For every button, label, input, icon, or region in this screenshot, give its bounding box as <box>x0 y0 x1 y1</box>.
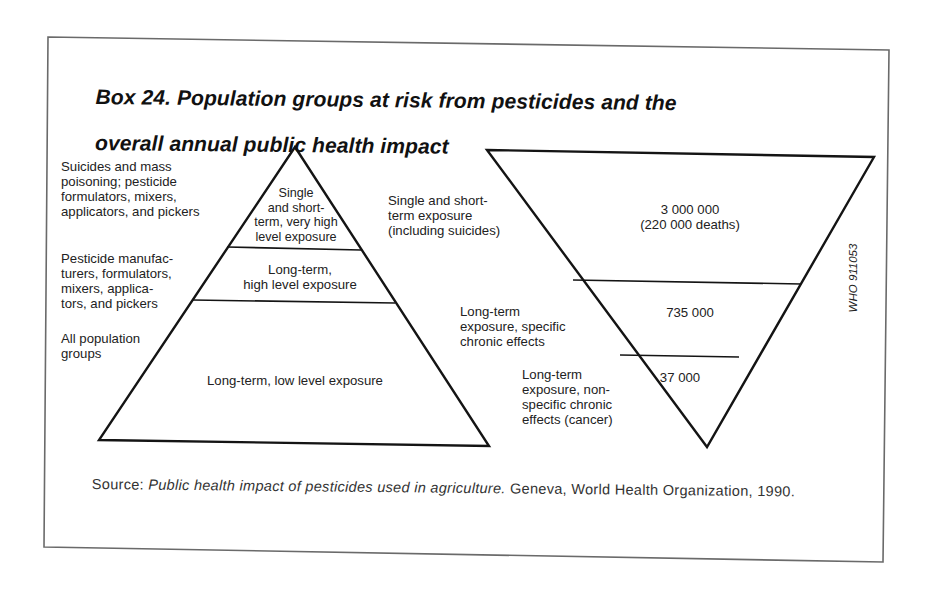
right-tier-value-cancer: 37 000 <box>640 370 720 385</box>
right-pyramid-divider-2 <box>620 355 739 357</box>
left-tier-label-low: Long-term, low level exposure <box>180 373 410 388</box>
left-tier-label-high: Long-term, high level exposure <box>220 262 380 292</box>
figure-title: Box 24. Population groups at risk from p… <box>95 62 856 185</box>
left-side-label-all-groups: All population groups <box>61 331 140 361</box>
figure-title-line-1: Box 24. Population groups at risk from p… <box>96 85 856 116</box>
left-side-label-acute-groups: Suicides and mass poisoning; pesticide f… <box>61 159 200 219</box>
left-pyramid-divider-2 <box>193 300 395 303</box>
figure-title-line-2: overall annual public health impact <box>95 131 855 162</box>
right-side-label-specific-chronic: Long-term exposure, specific chronic eff… <box>460 304 566 349</box>
right-pyramid-divider-1 <box>573 280 801 284</box>
right-tier-value-specific-chronic: 735 000 <box>640 305 740 320</box>
left-pyramid-divider-1 <box>227 247 361 250</box>
left-side-label-occupational-groups: Pesticide manufac- turers, formulators, … <box>61 251 173 311</box>
left-tier-label-very-high: Single and short- term, very high level … <box>240 186 352 244</box>
source-title: Public health impact of pesticides used … <box>148 477 506 497</box>
source-prefix: Source: <box>92 476 149 493</box>
right-tier-value-acute: 3 000 000 (220 000 deaths) <box>610 202 770 232</box>
right-side-label-nonspecific-chronic: Long-term exposure, non- specific chroni… <box>522 367 613 427</box>
figure-code: WHO 911053 <box>847 233 859 323</box>
diagram-canvas: Box 24. Population groups at risk from p… <box>0 0 935 604</box>
source-suffix: Geneva, World Health Organization, 1990. <box>506 480 795 499</box>
right-side-label-acute: Single and short- term exposure (includi… <box>388 193 500 238</box>
